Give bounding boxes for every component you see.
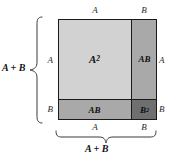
bottom-brace-icon: [55, 130, 159, 144]
edge-label-top-a: A: [86, 6, 104, 15]
edge-label-top-b: B: [135, 6, 153, 15]
bottom-sum-label: A + B: [85, 144, 109, 154]
edge-label-right-a: A: [159, 56, 170, 65]
edge-label-right-b: B: [159, 105, 170, 114]
square-outline: [58, 19, 157, 120]
left-brace-icon: [28, 16, 44, 124]
identity-square-diagram: A B A B A B A B A2 AB AB B2 A + B A + B: [0, 0, 170, 160]
left-sum-label: A + B: [2, 63, 26, 73]
